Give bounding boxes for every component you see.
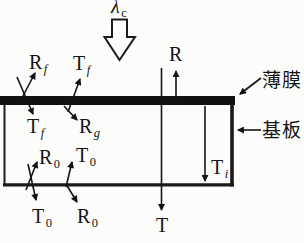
label-sub: f xyxy=(41,126,44,140)
label-text: T xyxy=(32,205,45,227)
label-r-g: Rg xyxy=(79,116,100,140)
label-sub: 0 xyxy=(92,216,98,230)
label-text: T xyxy=(211,156,224,178)
incident-beam-block-arrow xyxy=(105,20,136,61)
label-r-f: Rf xyxy=(29,52,47,76)
label-sub: f xyxy=(87,63,90,77)
rg-ray xyxy=(64,106,77,120)
label-sub: 0 xyxy=(54,157,60,171)
label-sub: 0 xyxy=(90,155,96,169)
thin-film-optics-diagram: λc Rf Tf R 薄膜 Tf Rg 基板 R0 T0 Ti T0 R0 T xyxy=(0,0,304,243)
label-sub: i xyxy=(225,167,228,181)
label-text: R xyxy=(29,51,43,73)
label-substrate: 基板 xyxy=(262,121,302,140)
label-film: 薄膜 xyxy=(262,71,302,90)
label-r: R xyxy=(169,44,183,64)
label-t: T xyxy=(156,215,169,235)
label-t-f-top: Tf xyxy=(73,53,90,77)
label-t-i: Ti xyxy=(211,157,228,181)
rf-ray xyxy=(22,73,35,98)
label-sub: g xyxy=(94,126,100,140)
ray-arrows xyxy=(17,68,261,210)
label-t-f-inside: Tf xyxy=(27,116,44,140)
label-text: T xyxy=(156,214,169,236)
label-text: 基板 xyxy=(262,120,302,141)
film-pointer-arrow xyxy=(240,78,261,94)
label-lambda-c: λc xyxy=(111,0,127,20)
label-text: R xyxy=(39,146,53,168)
label-text: T xyxy=(73,52,86,74)
film-bar xyxy=(0,96,235,105)
label-text: R xyxy=(79,115,93,137)
tf-up-ray xyxy=(68,79,80,112)
label-text: R xyxy=(169,43,183,65)
label-text: T xyxy=(27,115,40,137)
label-text: λ xyxy=(111,0,120,17)
label-sub: c xyxy=(121,6,127,20)
label-t-0-upper: T0 xyxy=(76,145,96,169)
label-r-0-lower: R0 xyxy=(77,206,98,230)
label-r-0-upper: R0 xyxy=(39,147,60,171)
label-text: 薄膜 xyxy=(262,70,302,91)
r0-lower-ray xyxy=(66,184,77,202)
label-text: T xyxy=(76,144,89,166)
label-sub: f xyxy=(44,62,47,76)
label-sub: 0 xyxy=(46,216,52,230)
label-text: R xyxy=(77,205,91,227)
label-t-0-lower: T0 xyxy=(32,206,52,230)
